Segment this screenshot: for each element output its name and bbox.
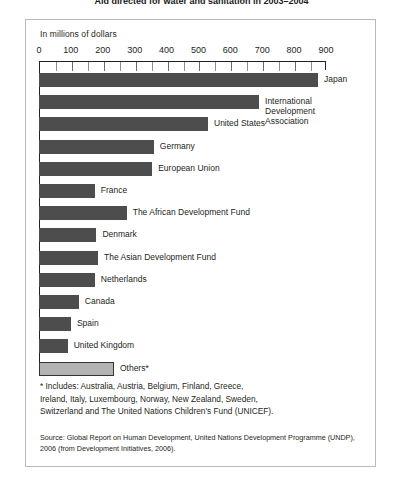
chart-bar-label: Germany [160,141,195,151]
x-axis-tick-label: 700 [255,45,270,55]
axis-major-tick [295,62,296,71]
chart-bar-row: Germany [39,140,326,154]
chart-bar-label: France [101,185,127,195]
x-axis-tick-label: 0 [36,45,41,55]
axis-minor-tick [120,62,121,71]
chart-bar-row: European Union [39,162,326,176]
chart-bar-row: Others* [39,362,326,376]
chart-title: Aid directed for water and sanitation in… [0,0,403,10]
chart-bar [39,273,95,287]
chart-bar-label: United States [214,118,265,128]
chart-bar-label: Spain [77,318,99,328]
chart-bar-row: International Development Association [39,95,326,109]
chart-bar-row: Netherlands [39,273,326,287]
chart-source-note: Source: Global Report on Human Developme… [40,432,362,454]
axis-minor-tick [88,62,89,71]
axis-major-tick [168,62,169,71]
axis-major-tick [263,62,264,71]
chart-bar-row: The African Development Fund [39,206,326,220]
axis-minor-tick [184,62,185,71]
chart-bar-label: European Union [158,163,219,173]
x-axis-tick-label: 400 [159,45,174,55]
chart-bar-row: Canada [39,295,326,309]
chart-bar-label: Netherlands [101,274,147,284]
chart-bar [39,184,95,198]
axis-major-tick [104,62,105,71]
chart-plot-area: JapanInternational Development Associati… [39,61,364,371]
chart-bar [39,117,208,131]
axis-major-tick [231,62,232,71]
axis-major-tick [136,62,137,71]
chart-bar [39,317,71,331]
x-axis-tick-label: 600 [223,45,238,55]
chart-bar-label: The Asian Development Fund [104,252,216,262]
x-axis-tick-label: 800 [287,45,302,55]
chart-frame: In millions of dollars 01002003004005006… [25,19,376,467]
x-axis-tick-label: 200 [95,45,110,55]
chart-bar-label: Others* [120,363,149,373]
chart-bar-row: Denmark [39,228,326,242]
chart-bar-row: United States [39,117,326,131]
chart-bar [39,206,127,220]
chart-bar-label: Denmark [102,229,136,239]
chart-bar-label: Japan [324,74,347,84]
chart-bar-row: The Asian Development Fund [39,251,326,265]
chart-footnote: * Includes: Australia, Austria, Belgium,… [40,380,360,418]
chart-bar-label: The African Development Fund [133,207,250,217]
axis-major-tick [72,62,73,71]
chart-bar-row: Japan [39,73,326,87]
chart-bar-row: France [39,184,326,198]
x-axis-tick-label: 100 [63,45,78,55]
chart-bar [39,73,318,87]
axis-minor-tick [247,62,248,71]
axis-minor-tick [311,62,312,71]
chart-bar-label: Canada [85,296,115,306]
x-axis-tick-label: 300 [127,45,142,55]
chart-bar-row: Spain [39,317,326,331]
chart-bar [39,362,114,376]
axis-scale-bar [39,61,326,70]
axis-minor-tick [152,62,153,71]
axis-minor-tick [279,62,280,71]
chart-bar [39,162,152,176]
axis-minor-tick [215,62,216,71]
chart-bar [39,251,98,265]
chart-bar [39,228,96,242]
chart-bar [39,95,259,109]
axis-major-tick [199,62,200,71]
x-axis-tick-labels: 0100200300400500600700800900 [39,45,364,61]
chart-bar [39,295,79,309]
chart-bar-row: United Kingdom [39,339,326,353]
x-axis-tick-label: 500 [191,45,206,55]
axis-minor-tick [56,62,57,71]
chart-bar-label: United Kingdom [74,340,134,350]
chart-bar [39,339,68,353]
x-axis-tick-label: 900 [318,45,333,55]
axis-units-label: In millions of dollars [40,29,117,39]
chart-bar [39,140,154,154]
